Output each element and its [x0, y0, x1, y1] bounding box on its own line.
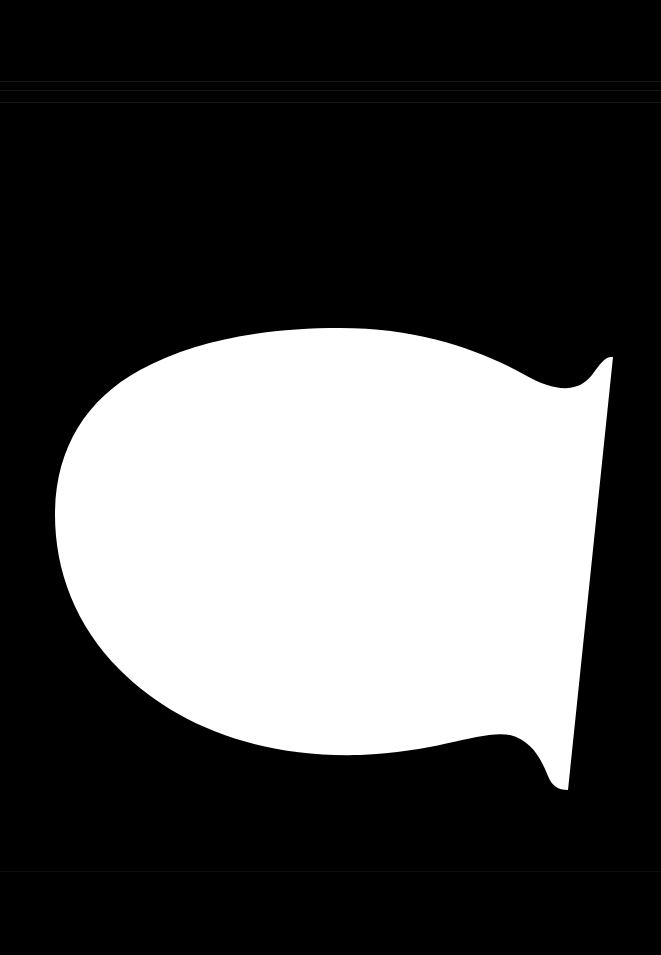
silhouette-path — [55, 328, 613, 790]
mask-canvas — [0, 0, 661, 955]
white-silhouette-shape — [0, 0, 661, 955]
